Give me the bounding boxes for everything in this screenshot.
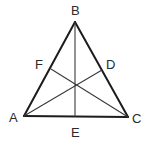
label-f: F <box>35 57 43 72</box>
label-a: A <box>9 110 18 125</box>
side-bc <box>75 22 128 117</box>
label-e: E <box>71 125 80 140</box>
side-ac <box>24 116 128 117</box>
label-d: D <box>106 57 115 72</box>
label-b: B <box>71 3 80 18</box>
label-c: C <box>132 111 141 126</box>
side-ab <box>24 22 75 116</box>
triangle-diagram: B A C E F D <box>0 0 146 143</box>
